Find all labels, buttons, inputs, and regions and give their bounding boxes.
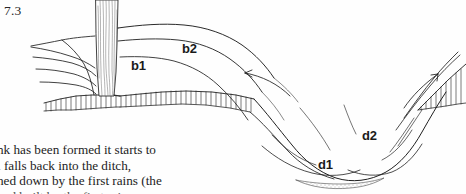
figure-label-d1: d1 <box>318 157 333 172</box>
figure-label-b1: b1 <box>131 58 146 73</box>
ground-hatching-right <box>418 64 466 110</box>
ground-hatching <box>44 91 254 112</box>
erosion-arrow-left <box>245 70 290 96</box>
figure-label-d2: d2 <box>362 128 377 143</box>
figure-label-b2: b2 <box>182 41 197 56</box>
body-text-line: l falls back into the ditch, <box>0 158 200 174</box>
body-text-line-partial: and built by the first rains <box>0 189 200 194</box>
tree-trunk <box>96 0 120 97</box>
book-page: 7.3 <box>0 0 466 194</box>
body-text-block: nk has been formed it starts to l falls … <box>0 142 200 194</box>
body-text-line: nk has been formed it starts to <box>0 142 200 158</box>
bank-contour-lines-left <box>31 36 96 95</box>
body-text-line: hed down by the first rains (the <box>0 173 200 189</box>
